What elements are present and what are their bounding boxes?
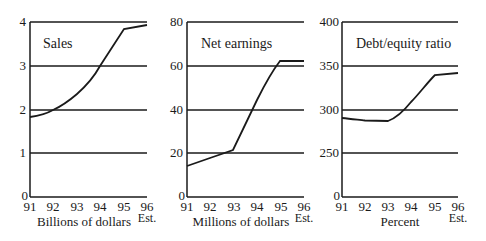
sales-y-ticks: 4 3 2 1 0 [20,14,29,203]
x-tick: 94 [405,199,419,214]
debt-title: Debt/equity ratio [356,36,451,51]
sales-chart: 4 3 2 1 0 91 92 93 94 95 96 Est. Sales B… [20,14,157,229]
sales-title: Sales [43,36,73,51]
y-tick: 40 [170,102,183,117]
y-tick: 60 [170,58,183,73]
x-tick: 91 [181,199,194,214]
estimate-label: Est. [138,211,156,225]
estimate-label: Est. [295,211,313,225]
charts-canvas: 4 3 2 1 0 91 92 93 94 95 96 Est. Sales B… [0,0,486,241]
sales-x-label: Billions of dollars [37,214,131,229]
x-tick: 92 [359,199,372,214]
debt-x-ticks: 91 92 93 94 95 96 [336,199,466,214]
x-tick: 95 [275,199,288,214]
y-tick: 400 [320,14,340,29]
x-tick: 94 [251,199,265,214]
earnings-x-label: Millions of dollars [193,214,290,229]
debt-y-ticks: 400 350 300 250 0 [320,14,341,203]
earnings-line [187,61,304,166]
earnings-x-ticks: 91 92 93 94 95 96 [181,199,312,214]
y-tick: 350 [320,58,340,73]
x-tick: 95 [118,199,131,214]
net-earnings-chart: 80 60 40 20 0 91 92 93 94 95 96 Est. Net… [170,14,313,229]
y-tick: 250 [320,145,340,160]
debt-x-label: Percent [381,214,420,229]
debt-equity-chart: 400 350 300 250 0 91 92 93 94 95 96 Est.… [320,14,468,229]
earnings-y-ticks: 80 60 40 20 0 [170,14,185,203]
x-tick: 94 [94,199,108,214]
x-tick: 93 [228,199,241,214]
y-tick: 300 [320,102,340,117]
x-tick: 95 [429,199,442,214]
debt-line [342,73,458,121]
y-tick: 20 [170,145,183,160]
y-tick: 4 [20,14,27,29]
x-tick: 93 [71,199,84,214]
y-tick: 1 [20,145,27,160]
x-tick: 91 [336,199,349,214]
x-tick: 92 [204,199,217,214]
sales-x-ticks: 91 92 93 94 95 96 [24,199,155,214]
x-tick: 91 [24,199,37,214]
y-tick: 80 [170,14,183,29]
y-tick: 2 [20,102,27,117]
x-tick: 92 [47,199,60,214]
y-tick: 3 [20,58,27,73]
estimate-label: Est. [449,211,467,225]
x-tick: 93 [382,199,395,214]
earnings-title: Net earnings [201,36,272,51]
